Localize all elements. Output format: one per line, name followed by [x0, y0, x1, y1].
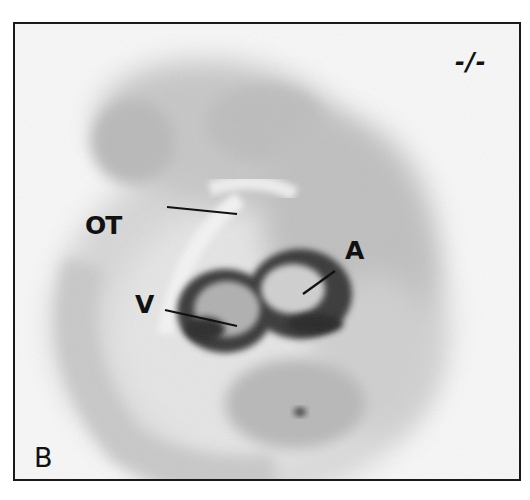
panel-letter: B	[34, 444, 53, 471]
figure-panel: -/- OT A V B	[0, 0, 530, 500]
atrium-label: A	[345, 238, 364, 263]
micrograph-frame: -/- OT A V B	[13, 22, 521, 481]
genotype-label: -/-	[455, 50, 487, 74]
outflow-tract-label: OT	[85, 213, 121, 238]
ventricle-label: V	[135, 292, 154, 317]
embryo-micrograph	[15, 24, 519, 479]
